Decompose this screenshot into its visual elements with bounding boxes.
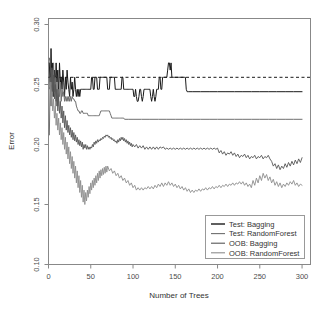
figure-background	[0, 0, 327, 315]
chart-figure: 0.100.150.200.250.30 050100150200250300 …	[0, 0, 327, 315]
x-tick-label: 50	[87, 272, 95, 281]
y-tick-label: 0.25	[32, 77, 41, 92]
legend-label: OOB: RandomForest	[229, 249, 300, 258]
y-tick-label: 0.30	[32, 17, 41, 32]
x-tick-label: 100	[127, 272, 140, 281]
legend-label: Test: Bagging	[229, 220, 274, 229]
x-tick-label: 300	[296, 272, 309, 281]
x-axis-title: Number of Trees	[149, 291, 209, 300]
y-tick-label: 0.20	[32, 137, 41, 152]
chart-legend: Test: BaggingTest: RandomForestOOB: Bagg…	[206, 216, 305, 259]
y-tick-label: 0.10	[32, 257, 41, 272]
legend-label: OOB: Bagging	[229, 239, 277, 248]
x-tick-label: 200	[211, 272, 224, 281]
y-axis-title: Error	[7, 132, 16, 150]
error-vs-trees-line-chart: 0.100.150.200.250.30 050100150200250300 …	[0, 0, 327, 315]
x-tick-label: 0	[46, 272, 50, 281]
x-tick-label: 150	[169, 272, 182, 281]
x-tick-label: 250	[254, 272, 267, 281]
legend-label: Test: RandomForest	[229, 229, 297, 238]
y-tick-label: 0.15	[32, 197, 41, 212]
